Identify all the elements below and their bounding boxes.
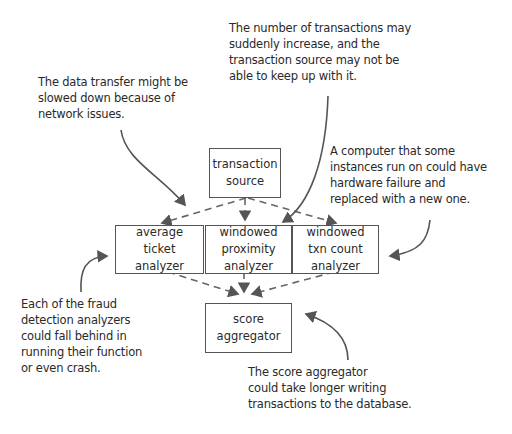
annotation-line: slowed down because of — [38, 90, 188, 106]
node-label: proximity — [221, 241, 275, 258]
node-label: average — [136, 224, 183, 241]
annotation-line: transactions to the database. — [248, 396, 412, 412]
node-label: source — [226, 173, 264, 190]
annotation-line: or even crash. — [21, 360, 142, 376]
annotation-line: A computer that some — [330, 143, 487, 159]
annotation-source-load: The number of transactions may suddenly … — [229, 20, 411, 84]
arrow-source-load — [283, 96, 328, 222]
node-label: analyzer — [311, 258, 360, 275]
annotation-aggregator: The score aggregator could take longer w… — [248, 364, 412, 412]
node-label: aggregator — [217, 328, 281, 345]
annotation-hardware: A computer that some instances run on co… — [330, 143, 487, 207]
annotation-line: suddenly increase, and the — [229, 36, 411, 52]
arrow-analyzers — [81, 256, 107, 292]
edge-source-to-average — [162, 198, 246, 223]
annotation-analyzers: Each of the fraud detection analyzers co… — [21, 296, 142, 376]
edge-source-to-txncount — [248, 198, 336, 223]
node-label: analyzer — [135, 258, 184, 275]
annotation-line: could fall behind in — [21, 328, 142, 344]
node-label: transaction — [213, 156, 278, 173]
annotation-line: instances run on could have — [330, 159, 487, 175]
annotation-line: network issues. — [38, 106, 188, 122]
annotation-line: transaction source may not be — [229, 52, 411, 68]
node-label: ticket — [144, 241, 176, 258]
annotation-line: replaced with a new one. — [330, 191, 487, 207]
edge-txncount-to-score — [252, 272, 334, 294]
annotation-line: hardware failure and — [330, 175, 487, 191]
node-average-ticket-analyzer: average ticket analyzer — [115, 225, 204, 274]
annotation-line: Each of the fraud — [21, 296, 142, 312]
annotation-line: able to keep up with it. — [229, 68, 411, 84]
annotation-line: running their function — [21, 344, 142, 360]
node-windowed-proximity-analyzer: windowed proximity analyzer — [205, 225, 292, 274]
node-score-aggregator: score aggregator — [205, 303, 292, 353]
edge-average-to-score — [168, 272, 238, 294]
arrow-hardware — [390, 220, 430, 256]
arrow-network — [121, 130, 185, 205]
annotation-line: The score aggregator — [248, 364, 412, 380]
annotation-line: detection analyzers — [21, 312, 142, 328]
node-label: windowed — [306, 224, 364, 241]
annotation-line: The number of transactions may — [229, 20, 411, 36]
node-label: windowed — [219, 224, 277, 241]
node-label: analyzer — [224, 258, 273, 275]
arrow-aggregator — [306, 314, 348, 360]
node-transaction-source: transaction source — [209, 148, 281, 198]
node-label: score — [233, 311, 264, 328]
node-windowed-txn-count-analyzer: windowed txn count analyzer — [292, 225, 379, 274]
annotation-line: The data transfer might be — [38, 74, 188, 90]
annotation-line: could take longer writing — [248, 380, 412, 396]
node-label: txn count — [308, 241, 363, 258]
annotation-network: The data transfer might be slowed down b… — [38, 74, 188, 122]
